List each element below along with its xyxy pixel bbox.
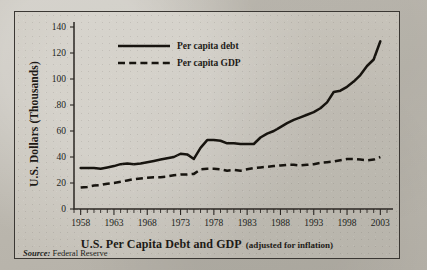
x-tick-label: 1973: [171, 218, 190, 228]
x-tick-label: 1983: [238, 218, 257, 228]
series-line-dashed: [81, 157, 381, 188]
x-tick-label: 1978: [204, 218, 223, 228]
x-tick-label: 1968: [138, 218, 157, 228]
page-background: 0204060.80100120140 19581963196819731978…: [0, 0, 427, 270]
x-tick-label: 1993: [304, 218, 323, 228]
x-tick-labels: 1958196319681973197819831988199319982003: [71, 218, 390, 228]
chart-legend: Per capita debtPer capita GDP: [118, 41, 241, 68]
source-note: Source: Federal Reserve: [23, 248, 108, 258]
axes-group: [70, 22, 393, 215]
y-tick-label: .80: [54, 100, 66, 110]
x-tick-label: 1963: [104, 218, 123, 228]
chart-plot-area: 0204060.80100120140 19581963196819731978…: [15, 12, 399, 258]
y-tick-label: 20: [57, 178, 67, 188]
y-tick-label: 140: [52, 22, 67, 32]
source-value: Federal Reserve: [53, 248, 108, 258]
legend-label: Per capita GDP: [177, 58, 241, 68]
x-tick-label: 2003: [371, 218, 390, 228]
y-tick-labels: 0204060.80100120140: [52, 22, 67, 214]
y-tick-label: 120: [52, 48, 67, 58]
x-tick-label: 1988: [271, 218, 290, 228]
y-tick-label: 0: [61, 204, 66, 214]
x-tick-label: 1998: [338, 218, 357, 228]
chart-figure: 0204060.80100120140 19581963196819731978…: [14, 11, 400, 259]
y-axis-title: U.S. Dollars (Thousands): [28, 39, 40, 209]
y-tick-label: 100: [52, 74, 67, 84]
legend-label: Per capita debt: [177, 41, 239, 51]
x-tick-label: 1958: [71, 218, 90, 228]
y-tick-label: 60: [57, 126, 67, 136]
x-axis-title-sub: (adjusted for inflation): [246, 240, 333, 250]
source-label: Source:: [23, 248, 50, 258]
y-tick-label: 40: [57, 152, 67, 162]
